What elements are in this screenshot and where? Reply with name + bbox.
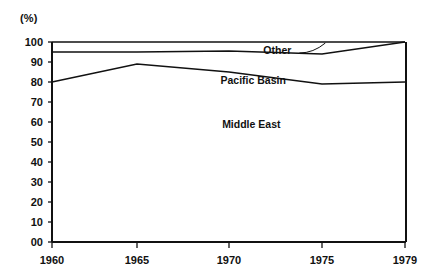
y-tick-label: 00 bbox=[31, 236, 43, 248]
other-leader-path bbox=[299, 43, 325, 53]
y-axis-tick-labels: 10090807060504030201000 bbox=[25, 36, 43, 248]
x-tick-label: 1979 bbox=[393, 254, 417, 266]
series-inline-labels: Middle EastPacific BasinOther bbox=[220, 44, 291, 130]
y-tick-label: 80 bbox=[31, 76, 43, 88]
y-tick-label: 30 bbox=[31, 176, 43, 188]
y-tick-label: 40 bbox=[31, 156, 43, 168]
series-label-other: Other bbox=[263, 44, 291, 56]
x-axis-tick-labels: 19601965197019751979 bbox=[40, 254, 417, 266]
y-tick-label: 20 bbox=[31, 196, 43, 208]
y-tick-label: 70 bbox=[31, 96, 43, 108]
y-tick-label: 50 bbox=[31, 136, 43, 148]
x-tick-label: 1970 bbox=[217, 254, 241, 266]
chart-container: (%) 10090807060504030201000 196019651970… bbox=[0, 0, 438, 280]
series-label-middle-east: Middle East bbox=[222, 118, 281, 130]
x-tick-label: 1960 bbox=[40, 254, 64, 266]
line-chart-plot: 10090807060504030201000 1960196519701975… bbox=[0, 0, 438, 280]
y-tick-label: 100 bbox=[25, 36, 43, 48]
y-tick-label: 60 bbox=[31, 116, 43, 128]
series-label-pacific-basin: Pacific Basin bbox=[220, 74, 285, 86]
other-leader-line bbox=[299, 43, 325, 53]
y-tick-label: 90 bbox=[31, 56, 43, 68]
series-line-pacific-basin bbox=[52, 42, 405, 54]
x-tick-label: 1975 bbox=[310, 254, 334, 266]
y-tick-label: 10 bbox=[31, 216, 43, 228]
x-tick-label: 1965 bbox=[125, 254, 149, 266]
